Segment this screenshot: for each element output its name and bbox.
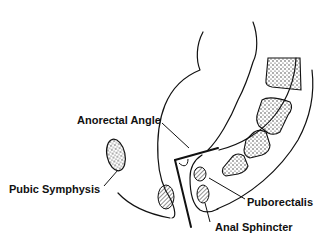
vertebra-3 bbox=[244, 130, 270, 158]
leader-anal-sphincter bbox=[205, 203, 210, 222]
leader-anorectal-angle bbox=[162, 123, 189, 148]
sacral-vertebrae bbox=[222, 58, 301, 176]
label-puborectalis: Puborectalis bbox=[247, 196, 313, 208]
vertebra-2 bbox=[257, 98, 292, 134]
label-pubic-symphysis: Pubic Symphysis bbox=[9, 183, 100, 195]
leader-pubic-symphysis bbox=[104, 170, 118, 186]
leader-puborectalis bbox=[209, 178, 245, 199]
anal-sphincter-muscle bbox=[197, 185, 209, 203]
angle-arc bbox=[179, 159, 188, 166]
pubic-symphysis-bone bbox=[104, 137, 128, 172]
vertebra-1 bbox=[266, 58, 301, 90]
label-anorectal-angle: Anorectal Angle bbox=[77, 114, 161, 126]
label-anal-sphincter: Anal Sphincter bbox=[215, 221, 293, 233]
vertebra-4 bbox=[222, 154, 248, 176]
anterior-sphincter-muscle bbox=[158, 185, 174, 209]
puborectalis-muscle bbox=[194, 167, 206, 181]
rectum-posterior-wall bbox=[208, 22, 257, 150]
